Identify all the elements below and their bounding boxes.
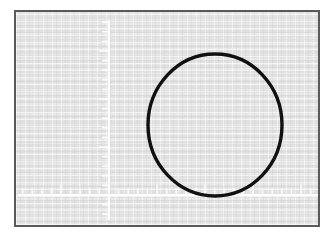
oscilloscope-frame: [14, 10, 320, 227]
signal-trace: [148, 54, 282, 196]
horizontal-axis: [18, 185, 318, 195]
oscilloscope-screen: [16, 12, 318, 225]
graticule-and-trace-svg: [16, 12, 318, 225]
screenshot-root: [0, 0, 334, 239]
lissajous-circle-trace: [148, 54, 282, 196]
vertical-axis: [99, 20, 109, 220]
